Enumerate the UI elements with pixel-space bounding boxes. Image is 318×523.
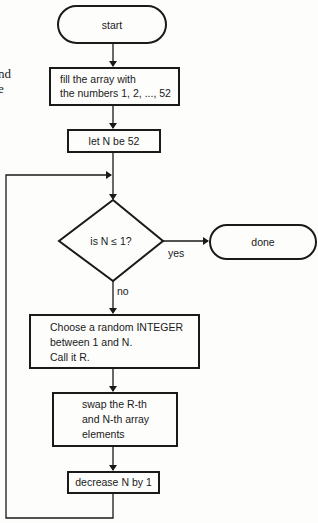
- fragment-line-1: nd: [0, 66, 11, 81]
- fragment-line-2: e: [0, 81, 11, 96]
- decision-label: is N ≤ 1?: [59, 234, 163, 248]
- choose-random-text: Choose a random INTEGER between 1 and N.…: [50, 320, 183, 365]
- done-label: done: [209, 235, 317, 249]
- fill-array-text: fill the array with the numbers 1, 2, ..…: [60, 72, 171, 100]
- choose-random-line-3: Call it R.: [50, 350, 183, 365]
- swap-line-3: elements: [82, 427, 149, 442]
- choose-random-line-1: Choose a random INTEGER: [50, 320, 183, 335]
- start-label: start: [57, 18, 167, 32]
- yes-label: yes: [168, 246, 184, 260]
- fill-array-line-2: the numbers 1, 2, ..., 52: [60, 86, 171, 100]
- fill-array-line-1: fill the array with: [60, 72, 171, 86]
- no-label: no: [117, 284, 129, 298]
- swap-line-2: and N-th array: [82, 412, 149, 427]
- decrement-label: decrease N by 1: [67, 475, 160, 489]
- swap-line-1: swap the R-th: [82, 397, 149, 412]
- choose-random-line-2: between 1 and N.: [50, 335, 183, 350]
- page-text-fragment: nd e: [0, 66, 11, 96]
- init-n-label: let N be 52: [67, 134, 161, 148]
- swap-text: swap the R-th and N-th array elements: [82, 397, 149, 442]
